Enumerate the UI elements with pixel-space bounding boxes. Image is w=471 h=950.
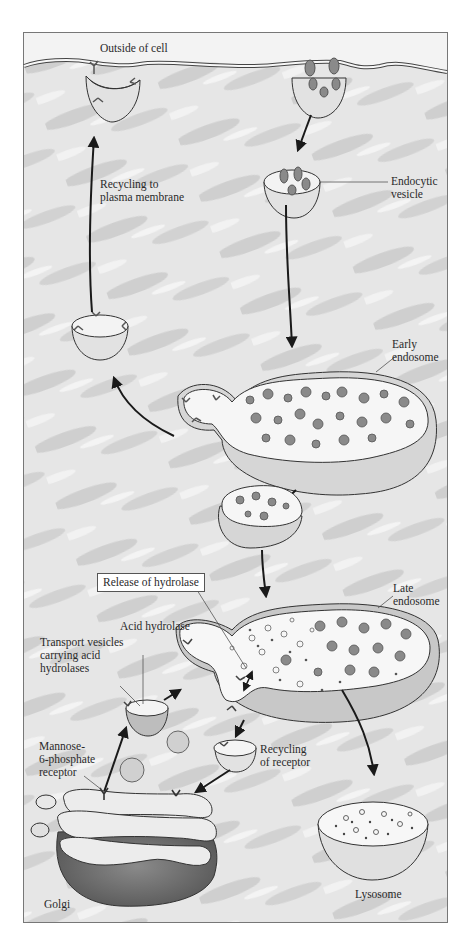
label-mannose-6-phosphate-receptor: Mannose- 6-phosphate receptor <box>39 740 95 779</box>
label-release-of-hydrolase: Release of hydrolase <box>97 573 205 592</box>
label-transport-vesicles: Transport vesicles carrying acid hydrola… <box>40 636 124 675</box>
label-outside-of-cell: Outside of cell <box>100 42 168 55</box>
hydrolase-vesicle <box>120 758 144 782</box>
label-early-endosome: Early endosome <box>392 338 439 364</box>
label-endocytic-vesicle: Endocytic vesicle <box>391 175 438 201</box>
label-recycling-to-plasma-membrane: Recycling to plasma membrane <box>100 178 184 204</box>
label-golgi: Golgi <box>44 898 70 911</box>
label-acid-hydrolase: Acid hydrolase <box>120 620 190 633</box>
endocytosis-pathway-diagram <box>0 0 471 950</box>
hydrolase-vesicle <box>167 731 189 753</box>
label-recycling-of-receptor: Recycling of receptor <box>260 743 310 769</box>
label-late-endosome: Late endosome <box>393 582 440 608</box>
label-lysosome: Lysosome <box>355 888 402 901</box>
